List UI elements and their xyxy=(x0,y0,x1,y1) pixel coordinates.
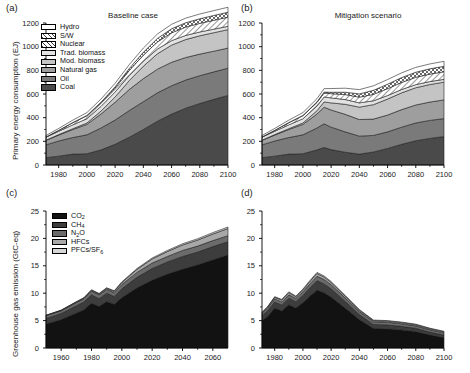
legend-swatch xyxy=(41,76,56,82)
y-tick-label: 15 xyxy=(229,261,255,270)
legend-label: PFCs/SF6 xyxy=(71,246,103,255)
x-tick-label: 2000 xyxy=(107,353,137,362)
legend-item: PFCs/SF6 xyxy=(52,246,103,255)
x-tick-label: 2100 xyxy=(429,353,459,362)
y-tick-label: 0 xyxy=(229,161,255,170)
panel-a-legend: HydroS/WNuclearTrad. biomassMod. biomass… xyxy=(41,23,105,92)
y-tick-label: 600 xyxy=(13,90,39,99)
legend-item: N2O xyxy=(52,229,103,238)
legend-swatch xyxy=(52,239,67,245)
legend-label: Coal xyxy=(60,83,75,92)
y-tick-label: 20 xyxy=(13,234,39,243)
x-tick-label: 2020 xyxy=(316,353,346,362)
x-tick-label: 2040 xyxy=(344,353,374,362)
panel-c-legend: CO2CH4N2OHFCsPFCs/SF6 xyxy=(52,212,103,255)
x-tick-label: 1980 xyxy=(260,353,290,362)
legend-item: CH4 xyxy=(52,221,103,230)
legend-swatch xyxy=(52,248,67,254)
legend-item: Coal xyxy=(41,83,105,92)
panel-c-tag: (c) xyxy=(6,187,17,198)
y-tick-label: 10 xyxy=(229,289,255,298)
y-tick-label: 1000 xyxy=(13,42,39,51)
x-tick-label: 2060 xyxy=(157,170,187,179)
y-tick-label: 800 xyxy=(229,66,255,75)
y-tick-label: 5 xyxy=(13,316,39,325)
legend-swatch xyxy=(41,50,56,56)
panel-b-plot xyxy=(235,0,470,190)
legend-swatch xyxy=(41,41,56,47)
y-tick-label: 1200 xyxy=(229,19,255,28)
x-tick-label: 2080 xyxy=(401,170,431,179)
x-tick-label: 2060 xyxy=(373,170,403,179)
y-tick-label: 1000 xyxy=(229,42,255,51)
y-tick-label: 200 xyxy=(13,137,39,146)
legend-swatch xyxy=(52,213,67,219)
x-tick-label: 2080 xyxy=(185,170,215,179)
x-tick-label: 1960 xyxy=(46,353,76,362)
y-tick-label: 25 xyxy=(229,207,255,216)
legend-swatch xyxy=(52,222,67,228)
panel-b-tag: (b) xyxy=(241,2,253,13)
x-tick-label: 2060 xyxy=(198,353,228,362)
legend-swatch xyxy=(41,84,56,90)
y-tick-label: 400 xyxy=(229,113,255,122)
y-tick-label: 800 xyxy=(13,66,39,75)
y-tick-label: 10 xyxy=(13,289,39,298)
x-tick-label: 2060 xyxy=(373,353,403,362)
x-tick-label: 2000 xyxy=(288,170,318,179)
y-tick-label: 5 xyxy=(229,316,255,325)
legend-swatch xyxy=(41,33,56,39)
panel-a-tag: (a) xyxy=(6,2,18,13)
x-tick-label: 2040 xyxy=(168,353,198,362)
x-tick-label: 2040 xyxy=(128,170,158,179)
x-tick-label: 2020 xyxy=(316,170,346,179)
x-tick-label: 1980 xyxy=(44,170,74,179)
y-tick-label: 20 xyxy=(229,234,255,243)
panel-b: (b) Mitigation scenario 0200400600800100… xyxy=(235,0,470,190)
x-tick-label: 1980 xyxy=(77,353,107,362)
y-tick-label: 200 xyxy=(229,137,255,146)
x-tick-label: 1980 xyxy=(260,170,290,179)
panel-a-title: Baseline case xyxy=(78,11,188,20)
panel-d-tag: (d) xyxy=(241,187,253,198)
legend-swatch xyxy=(41,59,56,65)
x-tick-label: 2020 xyxy=(137,353,167,362)
legend-swatch xyxy=(41,67,56,73)
y-tick-label: 0 xyxy=(13,344,39,353)
y-tick-label: 25 xyxy=(13,207,39,216)
y-tick-label: 1200 xyxy=(13,19,39,28)
panel-c: (c) Greenhouse gas emission (GtC-eq) CO2… xyxy=(0,185,235,373)
legend-swatch xyxy=(52,230,67,236)
x-tick-label: 2100 xyxy=(429,170,459,179)
y-tick-label: 0 xyxy=(13,161,39,170)
panel-a: (a) Baseline case Primary energy consump… xyxy=(0,0,235,190)
legend-item: Natural gas xyxy=(41,66,105,75)
x-tick-label: 2080 xyxy=(401,353,431,362)
y-tick-label: 400 xyxy=(13,113,39,122)
panel-d: (d) 051015202519802000202020402060208021… xyxy=(235,185,470,373)
panel-d-plot xyxy=(235,185,470,373)
x-tick-label: 2040 xyxy=(344,170,374,179)
x-tick-label: 2000 xyxy=(288,353,318,362)
y-tick-label: 15 xyxy=(13,261,39,270)
x-tick-label: 2000 xyxy=(72,170,102,179)
y-tick-label: 600 xyxy=(229,90,255,99)
panel-b-title: Mitigation scenario xyxy=(313,11,423,20)
x-tick-label: 2020 xyxy=(100,170,130,179)
y-tick-label: 0 xyxy=(229,344,255,353)
legend-swatch xyxy=(41,24,56,30)
